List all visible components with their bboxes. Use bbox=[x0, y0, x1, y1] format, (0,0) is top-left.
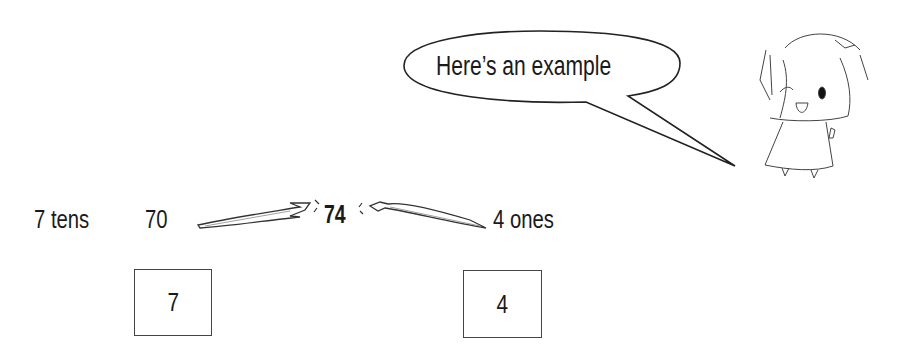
number-value: 74 bbox=[324, 200, 352, 229]
tens-answer-box: 7 bbox=[134, 269, 212, 336]
ones-label: 4 ones bbox=[493, 204, 571, 234]
tens-label: 7 tens bbox=[34, 204, 105, 234]
cartoon-girl-icon bbox=[760, 34, 868, 178]
left-arrow-icon bbox=[198, 203, 310, 228]
ones-answer-box: 4 bbox=[463, 270, 542, 338]
speech-bubble-text: Here’s an example bbox=[436, 50, 661, 82]
tens-value: 70 bbox=[145, 204, 174, 234]
right-arrow-icon bbox=[370, 202, 486, 228]
